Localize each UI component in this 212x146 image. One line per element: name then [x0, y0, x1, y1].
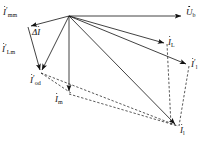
sub-b: b: [193, 12, 196, 18]
label-i-lm-prime: I′Lm: [2, 45, 15, 54]
label-i-l-upper: IL: [168, 38, 175, 47]
label-i-od-prime: I′od: [30, 76, 41, 85]
vector-i-l-upper: [69, 16, 164, 43]
vector-i-mm-prime: [31, 16, 69, 26]
phasor-diagram: I′mm I′Lm ΔI I′od Im Ub IL I′l Il: [0, 0, 212, 146]
sub-od: od: [35, 80, 41, 86]
vector-i-lm-prime: [42, 16, 69, 70]
label-i-l-lower: Il: [180, 126, 185, 135]
label-i-mm-prime: I′mm: [3, 8, 17, 17]
label-i-l-prime: I′l: [191, 60, 197, 69]
dashed-drop-i-l-prime: [179, 66, 189, 126]
sub-m: m: [58, 99, 63, 105]
label-u-b: Ub: [186, 8, 196, 17]
sub-mm: mm: [8, 12, 17, 18]
sub-l: l: [183, 130, 185, 136]
sub-lm: Lm: [7, 49, 15, 55]
sub-L: L: [171, 42, 175, 48]
vector-i-l-lower: [69, 16, 175, 124]
label-i-m: Im: [55, 95, 63, 104]
label-delta-i: ΔI: [32, 28, 40, 37]
solid-vectors-group: [28, 16, 186, 124]
